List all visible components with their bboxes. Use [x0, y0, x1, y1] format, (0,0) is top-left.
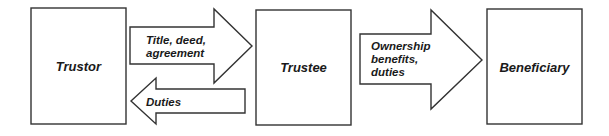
- flow-arrow-title-deed-agreement: Title, deed, agreement: [130, 9, 252, 83]
- right-arrow-icon: [130, 9, 252, 83]
- beneficiary-label: Beneficiary: [499, 60, 570, 75]
- flow-label-line-1: Ownership: [371, 40, 430, 52]
- entity-beneficiary: Beneficiary: [487, 9, 582, 124]
- flow-arrow-ownership-benefits-duties: Ownership benefits, duties: [360, 10, 482, 109]
- trustor-label: Trustor: [56, 59, 102, 74]
- entity-trustee: Trustee: [256, 10, 351, 125]
- trustee-label: Trustee: [280, 60, 327, 75]
- flow-label-line-2: agreement: [146, 47, 205, 59]
- flow-label-line-1: Duties: [146, 96, 181, 108]
- flow-arrow-duties: Duties: [131, 78, 245, 124]
- flow-label-line-3: duties: [371, 66, 405, 78]
- entity-trustor: Trustor: [31, 8, 126, 124]
- trust-flow-diagram: Trustor Trustee Beneficiary Title, deed,…: [0, 0, 609, 136]
- flow-label-line-2: benefits,: [371, 53, 418, 65]
- flow-label-line-1: Title, deed,: [146, 34, 206, 46]
